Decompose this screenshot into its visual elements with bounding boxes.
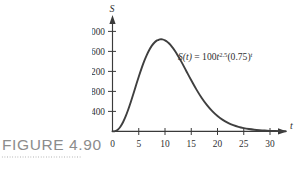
x-tick-label-0: 0 bbox=[110, 139, 115, 149]
y-tick-label-1600: 1600 bbox=[92, 47, 105, 57]
chart-plot-area: S t 400 800 1200 1600 2000 bbox=[92, 2, 302, 162]
caption-dotted-rule bbox=[1, 156, 81, 158]
y-tick-label-400: 400 bbox=[92, 107, 105, 117]
y-axis-label: S bbox=[110, 3, 115, 14]
curve-formula-annotation: S(t) = 100t2.5(0.75)t bbox=[178, 51, 253, 63]
formula-coefficient: 100 bbox=[202, 51, 217, 62]
y-axis bbox=[109, 15, 115, 132]
formula-lhs: S(t) bbox=[178, 51, 192, 63]
y-tick-label-1200: 1200 bbox=[92, 67, 105, 77]
y-tick-label-800: 800 bbox=[92, 87, 105, 97]
formula-decay: (0.75) bbox=[227, 51, 250, 63]
x-tick-label-25: 25 bbox=[239, 139, 249, 149]
x-tick-label-10: 10 bbox=[160, 139, 170, 149]
formula-decay-exponent: t bbox=[251, 51, 253, 58]
x-tick-label-15: 15 bbox=[187, 139, 197, 149]
x-tick-label-30: 30 bbox=[265, 139, 275, 149]
figure-caption-label: FIGURE 4.90 bbox=[2, 136, 102, 154]
figure-page: FIGURE 4.90 S t bbox=[0, 0, 302, 169]
chart-svg: S t 400 800 1200 1600 2000 bbox=[92, 2, 302, 162]
x-tick-label-20: 20 bbox=[213, 139, 223, 149]
x-axis-label: t bbox=[290, 120, 293, 131]
y-axis-arrow-icon bbox=[109, 15, 115, 24]
figure-caption-block: FIGURE 4.90 bbox=[0, 136, 86, 164]
x-tick-label-5: 5 bbox=[136, 139, 141, 149]
y-tick-label-2000: 2000 bbox=[92, 27, 105, 37]
